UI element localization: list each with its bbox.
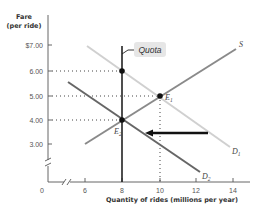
quota-leader-line (122, 50, 134, 54)
y-tick-3: 3.00 (29, 141, 43, 148)
e1-label: E1 (164, 93, 173, 103)
axes (45, 15, 250, 185)
y-axis-title-line1: Fare (16, 13, 33, 21)
y-tick-5: 5.00 (29, 93, 43, 100)
e2-label: E2 (113, 127, 122, 137)
y-tick-4: 4.00 (29, 117, 43, 124)
x-tick-8: 8 (120, 187, 124, 194)
reference-lines (52, 71, 160, 182)
x-tick-10: 10 (156, 187, 164, 194)
y-tick-6: 6.00 (29, 68, 43, 75)
x-tick-0: 0 (40, 187, 44, 194)
x-tick-6: 6 (83, 187, 87, 194)
d1-label: D1 (231, 147, 241, 157)
x-axis-title: Quantity of rides (millions per year) (106, 196, 238, 204)
quota-label: Quota (138, 45, 161, 55)
y-tick-7: $7.00 (25, 42, 43, 49)
quota-price-point (119, 68, 125, 74)
equilibrium-e2 (119, 117, 125, 123)
x-tick-14: 14 (229, 187, 237, 194)
supply-label: S (239, 40, 243, 49)
demand-curve-d2 (68, 82, 200, 172)
quota-chart: Fare (per ride) Quantity of rides (milli… (0, 0, 268, 215)
x-tick-12: 12 (192, 187, 200, 194)
d2-label: D2 (201, 172, 211, 182)
equilibrium-e1 (157, 93, 163, 99)
y-axis-title-line2: (per ride) (7, 22, 42, 30)
